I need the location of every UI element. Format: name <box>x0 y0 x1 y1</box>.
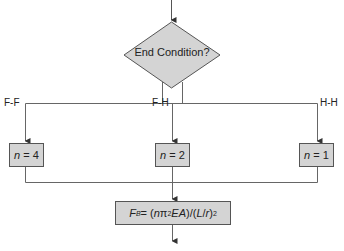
formula-pi: π <box>160 207 168 219</box>
n-variable: n <box>14 149 20 161</box>
process-box-n2: n = 2 <box>155 143 190 167</box>
branch-label-hh: H-H <box>320 97 338 108</box>
n-variable: n <box>160 149 166 161</box>
process-box-n1: n = 1 <box>299 143 334 167</box>
branch-label-ff: F-F <box>4 97 20 108</box>
n-variable: n <box>304 149 310 161</box>
n-value: = 1 <box>313 149 329 161</box>
process-box-n4: n = 4 <box>9 143 44 167</box>
decision-label: End Condition? <box>124 46 220 58</box>
formula-box: FB = (nπ2 EA)/(L/r)2 <box>115 201 231 225</box>
n-value: = 2 <box>169 149 185 161</box>
formula-ea: EA <box>171 207 186 219</box>
formula-eq: = ( <box>141 207 154 219</box>
branch-label-fh: F-H <box>152 97 169 108</box>
formula-mid: )/( <box>186 207 196 219</box>
n-value: = 4 <box>23 149 39 161</box>
formula-sq: 2 <box>213 210 217 217</box>
formula-lhs: F <box>129 207 136 219</box>
